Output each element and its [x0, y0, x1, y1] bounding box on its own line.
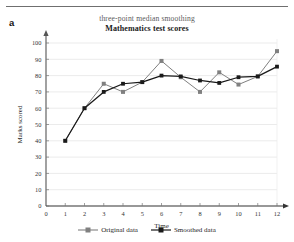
legend-label-original: Original data — [101, 226, 138, 234]
legend-swatch-smoothed-icon — [151, 226, 171, 234]
svg-text:20: 20 — [35, 170, 41, 177]
svg-text:2: 2 — [83, 210, 86, 217]
figure-panel-a: a three-point median smoothing Mathemati… — [0, 0, 294, 242]
axes-group — [43, 30, 289, 209]
svg-text:8: 8 — [198, 210, 201, 217]
svg-text:60: 60 — [35, 105, 41, 112]
svg-text:0: 0 — [44, 210, 47, 217]
svg-text:1: 1 — [64, 210, 67, 217]
svg-text:10: 10 — [35, 186, 41, 193]
svg-text:90: 90 — [35, 56, 41, 63]
y-axis-label: Marks scored — [16, 105, 24, 143]
data-series-group — [63, 49, 279, 143]
svg-text:9: 9 — [218, 210, 221, 217]
svg-text:0: 0 — [38, 202, 41, 209]
svg-text:70: 70 — [35, 88, 41, 95]
svg-text:7: 7 — [179, 210, 183, 217]
svg-text:40: 40 — [35, 137, 41, 144]
svg-text:5: 5 — [141, 210, 144, 217]
legend-item-original[interactable]: Original data — [78, 226, 138, 234]
svg-text:11: 11 — [255, 210, 261, 217]
legend-swatch-original-icon — [78, 226, 98, 234]
legend-item-smoothed[interactable]: Smoothed data — [151, 226, 216, 234]
legend-label-smoothed: Smoothed data — [174, 226, 216, 234]
svg-text:50: 50 — [35, 121, 41, 128]
gridlines-group — [46, 39, 277, 206]
chart-legend: Original data Smoothed data — [0, 226, 294, 234]
svg-text:80: 80 — [35, 72, 41, 79]
svg-text:4: 4 — [121, 210, 125, 217]
svg-text:12: 12 — [274, 210, 280, 217]
svg-text:100: 100 — [32, 39, 42, 46]
svg-text:10: 10 — [235, 210, 241, 217]
x-tick-group: 0123456789101112 — [44, 203, 280, 217]
svg-text:6: 6 — [160, 210, 163, 217]
chart-plot-area: 0123456789101112 0102030405060708090100 … — [0, 0, 294, 242]
svg-text:30: 30 — [35, 153, 41, 160]
svg-text:3: 3 — [102, 210, 105, 217]
